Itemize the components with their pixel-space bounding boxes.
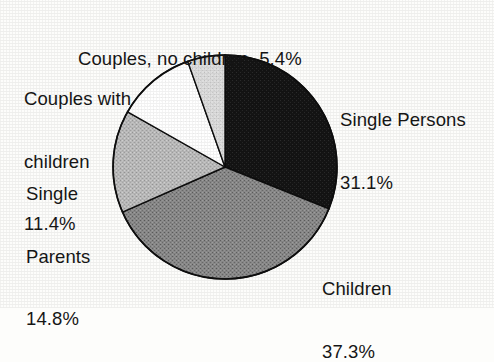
pie-label-children: Children 37.3%	[322, 238, 392, 362]
pie-label-couples-with-children-line1: Couples with	[24, 89, 131, 110]
pie-label-single-parents-value: 14.8%	[26, 309, 90, 330]
pie-label-single-persons-line1: Single Persons	[340, 110, 466, 131]
pie-label-single-parents: Single Parents 14.8%	[26, 143, 90, 362]
pie-label-children-line1: Children	[322, 279, 392, 300]
pie-label-children-value: 37.3%	[322, 342, 392, 362]
pie-label-single-parents-line2: Parents	[26, 247, 90, 268]
pie-label-single-parents-line1: Single	[26, 184, 90, 205]
pie-label-single-persons-value: 31.1%	[340, 173, 466, 194]
pie-label-single-persons: Single Persons 31.1%	[340, 69, 466, 235]
